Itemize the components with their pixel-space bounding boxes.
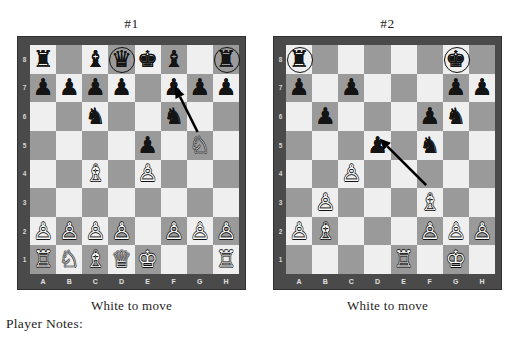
piece-white-rook-h1[interactable]: ♖ [216,248,237,271]
square-c7[interactable]: ♟ [338,74,364,103]
piece-black-bishop-f8[interactable]: ♝ [163,48,184,71]
piece-white-king-g1[interactable]: ♔ [446,248,467,271]
square-d5[interactable] [108,131,134,160]
piece-black-pawn-b6[interactable]: ♟ [315,105,336,128]
square-f7[interactable]: ♟ [161,74,187,103]
square-e8[interactable]: ♚ [135,45,161,74]
piece-black-knight-c6[interactable]: ♞ [85,105,106,128]
square-d8[interactable]: ♛ [108,45,134,74]
piece-white-queen-d1[interactable]: ♕ [111,248,132,271]
piece-white-knight-b1[interactable]: ♘ [59,248,80,271]
piece-white-knight-g5[interactable]: ♘ [190,134,211,157]
square-a2[interactable]: ♙ [286,217,312,246]
square-b7[interactable]: ♟ [56,74,82,103]
square-b6[interactable]: ♟ [312,102,338,131]
square-f5[interactable] [161,131,187,160]
piece-black-pawn-d7[interactable]: ♟ [111,76,132,99]
square-g7[interactable]: ♟ [443,74,469,103]
square-c8[interactable] [338,45,364,74]
square-e2[interactable] [135,217,161,246]
square-a5[interactable] [30,131,56,160]
piece-white-pawn-a2[interactable]: ♙ [33,220,54,243]
square-h5[interactable] [469,131,495,160]
square-b8[interactable] [312,45,338,74]
piece-white-pawn-b2[interactable]: ♙ [59,220,80,243]
square-h4[interactable] [469,160,495,189]
square-a8[interactable]: ♜ [30,45,56,74]
square-c2[interactable]: ♙ [82,217,108,246]
square-f3[interactable]: ♗ [417,188,443,217]
square-c1[interactable] [338,245,364,274]
piece-white-pawn-f2[interactable]: ♙ [163,220,184,243]
square-b4[interactable] [312,160,338,189]
square-e7[interactable] [135,74,161,103]
square-d3[interactable] [108,188,134,217]
square-a6[interactable] [30,102,56,131]
square-g3[interactable] [187,188,213,217]
square-g5[interactable]: ♘ [187,131,213,160]
square-a1[interactable] [286,245,312,274]
square-h3[interactable] [469,188,495,217]
square-g8[interactable]: ♚ [443,45,469,74]
square-a3[interactable] [286,188,312,217]
square-f4[interactable] [161,160,187,189]
piece-black-knight-g6[interactable]: ♞ [446,105,467,128]
piece-black-queen-d8[interactable]: ♛ [111,48,132,71]
square-a4[interactable] [286,160,312,189]
square-a1[interactable]: ♖ [30,245,56,274]
piece-black-pawn-h7[interactable]: ♟ [216,76,237,99]
piece-black-pawn-h7[interactable]: ♟ [472,76,493,99]
square-e1[interactable]: ♔ [135,245,161,274]
square-e4[interactable] [391,160,417,189]
square-e4[interactable]: ♙ [135,160,161,189]
square-h8[interactable] [469,45,495,74]
square-f6[interactable]: ♟ [417,102,443,131]
square-g4[interactable] [187,160,213,189]
square-b7[interactable] [312,74,338,103]
square-c4[interactable]: ♙ [338,160,364,189]
square-f6[interactable]: ♞ [161,102,187,131]
piece-black-king-e8[interactable]: ♚ [137,48,158,71]
piece-black-pawn-c7[interactable]: ♟ [341,76,362,99]
piece-black-bishop-c8[interactable]: ♝ [85,48,106,71]
piece-white-pawn-c2[interactable]: ♙ [85,220,106,243]
square-d1[interactable]: ♕ [108,245,134,274]
square-b1[interactable]: ♘ [56,245,82,274]
square-e7[interactable] [391,74,417,103]
piece-white-pawn-g2[interactable]: ♙ [190,220,211,243]
piece-black-rook-h8[interactable]: ♜ [216,48,237,71]
square-b6[interactable] [56,102,82,131]
square-e1[interactable]: ♖ [391,245,417,274]
square-e5[interactable]: ♟ [135,131,161,160]
piece-white-bishop-b2[interactable]: ♗ [315,220,336,243]
piece-white-king-e1[interactable]: ♔ [137,248,158,271]
square-d2[interactable] [364,217,390,246]
square-h6[interactable] [469,102,495,131]
square-d7[interactable] [364,74,390,103]
square-f2[interactable]: ♙ [161,217,187,246]
piece-white-pawn-g2[interactable]: ♙ [446,220,467,243]
square-a2[interactable]: ♙ [30,217,56,246]
square-e3[interactable] [391,188,417,217]
square-g6[interactable] [187,102,213,131]
piece-white-pawn-e4[interactable]: ♙ [137,162,158,185]
square-e5[interactable] [391,131,417,160]
square-h8[interactable]: ♜ [213,45,239,74]
square-f1[interactable] [417,245,443,274]
piece-black-pawn-b7[interactable]: ♟ [59,76,80,99]
square-a5[interactable] [286,131,312,160]
square-c8[interactable]: ♝ [82,45,108,74]
square-b3[interactable] [56,188,82,217]
square-h3[interactable] [213,188,239,217]
square-d4[interactable] [364,160,390,189]
piece-white-pawn-a2[interactable]: ♙ [289,220,310,243]
piece-white-rook-e1[interactable]: ♖ [393,248,414,271]
square-f7[interactable] [417,74,443,103]
square-e3[interactable] [135,188,161,217]
square-c6[interactable] [338,102,364,131]
square-g2[interactable]: ♙ [187,217,213,246]
piece-white-bishop-f3[interactable]: ♗ [419,191,440,214]
square-b2[interactable]: ♙ [56,217,82,246]
square-a7[interactable]: ♟ [30,74,56,103]
piece-black-pawn-g7[interactable]: ♟ [190,76,211,99]
